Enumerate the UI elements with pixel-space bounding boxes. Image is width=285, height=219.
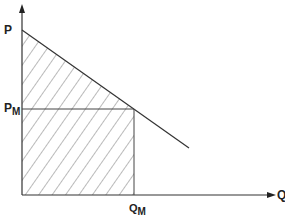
quantity-label-qm: QM	[129, 202, 146, 217]
x-axis-arrow-icon	[267, 192, 276, 198]
diagram-canvas: P Q PM QM	[0, 0, 285, 219]
y-axis-label: P	[4, 23, 12, 37]
hatched-area	[22, 30, 134, 195]
price-label-pm: PM	[4, 101, 20, 117]
x-axis-label: Q	[277, 188, 285, 202]
y-axis-arrow-icon	[19, 4, 25, 13]
